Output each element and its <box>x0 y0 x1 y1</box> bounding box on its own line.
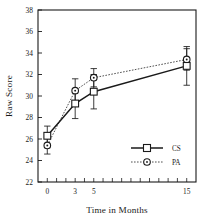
x-tick-label: 3 <box>73 187 77 196</box>
legend-label-cs: CS <box>172 145 181 153</box>
data-point-pa-dot <box>46 145 48 147</box>
plot-frame <box>38 10 196 182</box>
data-point-cs <box>90 88 97 95</box>
chart-legend: CS PA <box>131 145 181 167</box>
x-tick-label: 0 <box>45 187 49 196</box>
data-point-pa-dot <box>93 77 95 79</box>
y-tick-label: 32 <box>26 70 34 79</box>
error-bars-pa <box>44 49 190 154</box>
y-tick-label: 38 <box>26 6 34 15</box>
data-point-cs <box>72 100 79 107</box>
x-axis-title: Time in Months <box>86 205 148 215</box>
legend-marker-pa-dot <box>146 161 148 163</box>
y-tick-label: 30 <box>26 92 34 101</box>
data-point-cs <box>44 132 51 139</box>
x-axis-ticks: 03515 <box>45 187 190 196</box>
x-axis-minor-ticks <box>47 178 186 182</box>
chart-figure: 222426283032343638 03515 Time in Months … <box>0 0 220 223</box>
legend-label-pa: PA <box>172 159 181 167</box>
y-tick-label: 36 <box>26 27 34 36</box>
y-axis-ticks: 222426283032343638 <box>26 6 42 187</box>
series-line-cs <box>47 66 186 136</box>
y-tick-label: 22 <box>26 178 34 187</box>
legend-marker-cs <box>144 145 151 152</box>
y-tick-label: 28 <box>26 113 34 122</box>
data-point-cs <box>183 63 190 70</box>
x-tick-label: 15 <box>183 187 191 196</box>
y-tick-label: 34 <box>26 49 34 58</box>
error-bars-cs <box>44 47 190 146</box>
data-point-pa-dot <box>186 59 188 61</box>
axes-box <box>38 10 196 182</box>
y-axis-title: Raw Score <box>4 75 14 117</box>
markers-cs <box>44 63 190 140</box>
data-point-pa-dot <box>74 90 76 92</box>
markers-pa <box>44 56 190 149</box>
y-tick-label: 26 <box>26 135 34 144</box>
y-tick-label: 24 <box>26 156 34 165</box>
line-chart: 222426283032343638 03515 Time in Months … <box>0 0 220 223</box>
x-tick-label: 5 <box>92 187 96 196</box>
